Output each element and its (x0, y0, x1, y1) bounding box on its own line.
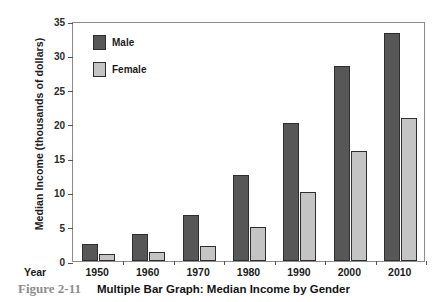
y-axis-tick: 20 (54, 121, 73, 131)
y-axis-tick-label: 15 (54, 155, 68, 165)
plot-area: Male Female 05101520253035 (72, 22, 425, 262)
y-axis-tick-label: 20 (54, 121, 68, 131)
x-axis-tick-label-2000: 2000 (338, 266, 361, 278)
x-axis-title: Year (24, 266, 46, 278)
legend-item-male: Male (93, 35, 146, 50)
x-axis-tick-mark (325, 261, 326, 265)
legend-swatch-female-icon (93, 62, 106, 77)
y-axis-tick: 5 (59, 224, 73, 234)
y-axis-tick-mark (68, 91, 73, 92)
figure-number: Figure 2-11 (18, 281, 81, 297)
x-axis-tick-mark (426, 261, 427, 265)
x-axis-tick-mark (224, 261, 225, 265)
legend-label-female: Female (112, 65, 146, 75)
y-axis-tick-mark (68, 228, 73, 229)
bar-female-1990 (300, 192, 316, 261)
figure-title: Multiple Bar Graph: Median Income by Gen… (97, 283, 350, 295)
bar-chart: Median Income (thousands of dollars) Yea… (0, 0, 438, 278)
x-axis-tick-label-1960: 1960 (136, 266, 159, 278)
y-axis-tick-label: 10 (54, 189, 68, 199)
y-axis-tick-mark (68, 194, 73, 195)
y-axis-title: Median Income (thousands of dollars) (33, 9, 45, 259)
x-axis-tick-mark (275, 261, 276, 265)
y-axis-tick-label: 30 (54, 52, 68, 62)
bar-female-2010 (401, 118, 417, 261)
y-axis-tick-label: 5 (59, 224, 68, 234)
y-axis-tick: 15 (54, 155, 73, 165)
x-axis-tick-label-1990: 1990 (287, 266, 310, 278)
y-axis-tick-label: 25 (54, 87, 68, 97)
bar-female-1980 (250, 227, 266, 261)
bar-female-2000 (351, 151, 367, 261)
y-axis-tick: 10 (54, 189, 73, 199)
y-axis-tick: 30 (54, 52, 73, 62)
figure-container: Median Income (thousands of dollars) Yea… (0, 0, 438, 302)
x-axis-tick-label-2010: 2010 (388, 266, 411, 278)
x-axis-tick-mark (174, 261, 175, 265)
bar-male-1960 (132, 234, 148, 261)
bar-female-1970 (200, 246, 216, 261)
y-axis-tick-label: 0 (59, 258, 68, 268)
y-axis-tick-mark (68, 57, 73, 58)
legend-swatch-male-icon (93, 35, 106, 50)
y-axis-tick: 0 (59, 258, 73, 268)
bar-female-1960 (149, 252, 165, 261)
legend-label-male: Male (112, 38, 134, 48)
bar-female-1950 (99, 254, 115, 261)
figure-caption: Figure 2-11 Multiple Bar Graph: Median I… (18, 281, 350, 297)
x-axis-tick-label-1970: 1970 (186, 266, 209, 278)
y-axis-tick-mark (68, 23, 73, 24)
bar-male-1980 (233, 175, 249, 261)
y-axis-tick: 25 (54, 87, 73, 97)
y-axis-tick-mark (68, 160, 73, 161)
legend-item-female: Female (93, 62, 146, 77)
x-axis-tick-label-1980: 1980 (237, 266, 260, 278)
y-axis-tick-label: 35 (54, 18, 68, 28)
x-axis-tick-label-1950: 1950 (86, 266, 109, 278)
bar-male-1950 (82, 244, 98, 261)
bar-male-2000 (334, 66, 350, 261)
bar-male-2010 (384, 33, 400, 261)
y-axis-tick-mark (68, 263, 73, 264)
bar-male-1970 (183, 215, 199, 261)
y-axis-tick-mark (68, 125, 73, 126)
x-axis-tick-mark (376, 261, 377, 265)
x-axis-tick-mark (123, 261, 124, 265)
chart-legend: Male Female (93, 35, 146, 89)
bar-male-1990 (283, 123, 299, 262)
y-axis-tick: 35 (54, 18, 73, 28)
